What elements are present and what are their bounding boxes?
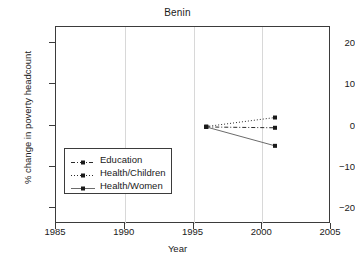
legend-item: Health/Children bbox=[65, 166, 171, 179]
chart-figure: Benin % change in poverty headcount Year… bbox=[0, 0, 355, 264]
x-tick-mark bbox=[55, 223, 56, 229]
x-axis-label: Year bbox=[0, 243, 355, 254]
y-tick-mark bbox=[49, 207, 55, 208]
legend-label: Health/Children bbox=[96, 167, 165, 178]
legend-label: Health/Women bbox=[96, 180, 163, 191]
chart-legend: EducationHealth/ChildrenHealth/Women bbox=[64, 148, 172, 194]
y-tick-mark bbox=[49, 42, 55, 43]
y-tick-label: −20 bbox=[321, 201, 355, 212]
y-tick-mark bbox=[49, 125, 55, 126]
legend-label: Education bbox=[96, 154, 142, 165]
y-tick-mark bbox=[49, 166, 55, 167]
legend-line-swatch bbox=[70, 180, 96, 191]
y-tick-label: −10 bbox=[321, 160, 355, 171]
x-tick-mark bbox=[193, 223, 194, 229]
y-tick-label: 0 bbox=[321, 119, 355, 130]
y-tick-label: 10 bbox=[321, 78, 355, 89]
x-tick-mark bbox=[124, 223, 125, 229]
legend-item: Education bbox=[65, 153, 171, 166]
y-tick-label: 20 bbox=[321, 37, 355, 48]
legend-item: Health/Women bbox=[65, 179, 171, 192]
legend-line-swatch bbox=[70, 167, 96, 178]
y-axis-label: % change in poverty headcount bbox=[22, 23, 33, 213]
gridline-1995 bbox=[194, 27, 195, 224]
chart-title: Benin bbox=[0, 7, 355, 18]
legend-line-swatch bbox=[70, 154, 96, 165]
gridline-1990 bbox=[125, 27, 126, 224]
x-tick-mark bbox=[261, 223, 262, 229]
gridline-2000 bbox=[262, 27, 263, 224]
y-tick-mark bbox=[49, 83, 55, 84]
x-tick-mark bbox=[330, 223, 331, 229]
